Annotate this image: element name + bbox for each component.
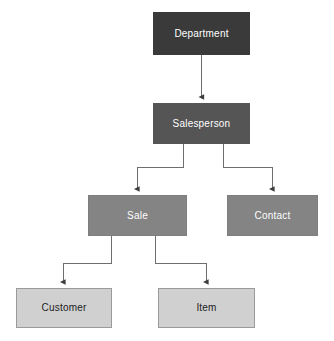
node-customer[interactable]: Customer: [16, 288, 112, 328]
edge-sale-to-customer: [63, 236, 111, 282]
node-customer-label: Customer: [42, 303, 87, 313]
node-salesperson[interactable]: Salesperson: [153, 103, 250, 144]
node-sale-label: Sale: [127, 211, 148, 221]
node-item-label: Item: [196, 303, 216, 313]
node-contact-label: Contact: [255, 211, 291, 221]
node-contact[interactable]: Contact: [227, 195, 318, 236]
edge-salesperson-to-sale: [137, 144, 183, 189]
edge-sale-to-item: [155, 236, 206, 282]
node-sale[interactable]: Sale: [88, 195, 187, 236]
node-item[interactable]: Item: [158, 288, 255, 328]
diagram-canvas: Department Salesperson Sale Contact Cust…: [0, 0, 334, 341]
edge-salesperson-to-contact: [223, 144, 272, 189]
node-salesperson-label: Salesperson: [173, 119, 231, 129]
node-department[interactable]: Department: [153, 12, 250, 55]
node-department-label: Department: [174, 29, 228, 39]
